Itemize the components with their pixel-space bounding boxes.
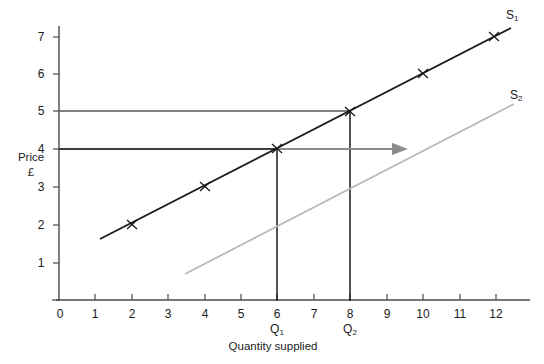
x-tick-label-4: 4 [197,307,213,321]
y-axis-title-line1: Price [8,150,54,165]
q1-label-sub: 1 [279,328,283,337]
supply-curve-chart: 7 6 5 4 3 2 1 0 1 2 3 4 5 6 7 8 9 10 11 … [0,0,544,364]
y-tick-label-7: 7 [34,30,48,44]
data-point-marker [418,69,428,78]
x-tick-label-1: 1 [87,307,103,321]
data-point-marker [489,32,499,41]
q2-axis-marker: Q2 [336,322,364,336]
x-tick-label-5: 5 [233,307,249,321]
y-tick-label-6: 6 [34,67,48,81]
y-tick-label-1: 1 [34,256,48,270]
x-tick-label-6: 6 [269,307,285,321]
q1-axis-marker: Q1 [263,322,291,336]
s1-label-text: S [506,8,514,22]
supply-curve-s1 [100,28,511,239]
y-tick-label-2: 2 [34,218,48,232]
y-tick-label-5: 5 [34,104,48,118]
s1-label-sub: 1 [514,14,518,23]
y-tick-label-3: 3 [34,180,48,194]
q2-label-sub: 2 [352,328,356,337]
x-tick-label-9: 9 [379,307,395,321]
y-axis-title-line2: £ [8,165,54,180]
x-tick-label-10: 10 [413,307,433,321]
x-tick-label-8: 8 [342,307,358,321]
x-tick-label-0: 0 [52,307,68,321]
s2-label-text: S [510,88,518,102]
x-tick-label-11: 11 [450,307,470,321]
x-axis-ticks [95,294,496,300]
x-axis-title: Quantity supplied [193,340,353,352]
series-label-s2: S2 [510,88,522,102]
s2-label-sub: 2 [518,94,522,103]
x-tick-label-12: 12 [486,307,506,321]
x-tick-label-3: 3 [160,307,176,321]
y-axis-title: Price £ [8,150,54,180]
series-label-s1: S1 [506,8,518,22]
x-tick-label-7: 7 [306,307,322,321]
x-tick-label-2: 2 [124,307,140,321]
